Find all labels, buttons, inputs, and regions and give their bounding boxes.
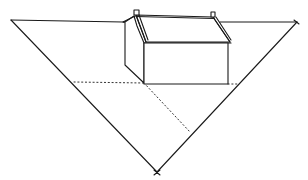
chimney-left xyxy=(134,10,139,15)
house-front-face xyxy=(144,43,228,84)
gable-corner-dot xyxy=(123,21,125,23)
house-roof xyxy=(136,15,230,42)
horizon-line-left xyxy=(11,20,123,22)
perspective-diagram xyxy=(0,0,308,180)
dotted-baseline-left xyxy=(74,82,144,83)
chimney-right xyxy=(211,12,215,17)
dotted-diagonal xyxy=(144,83,190,132)
bottom-vertex-mark xyxy=(154,170,160,175)
